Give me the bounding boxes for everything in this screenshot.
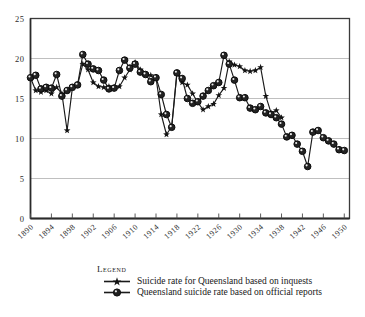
data-point-highlight (264, 111, 266, 113)
data-point-circle (163, 111, 170, 118)
data-point-highlight (170, 125, 172, 127)
legend-label-official-reports: Queensland suicide rate based on officia… (137, 287, 322, 298)
y-axis-tick-label: 10 (15, 134, 25, 144)
data-point-circle (273, 114, 280, 121)
data-point-highlight (243, 96, 245, 98)
data-point-highlight (65, 88, 67, 90)
data-point-circle (242, 94, 249, 101)
data-point-circle (142, 71, 149, 78)
data-point-circle (231, 77, 238, 84)
data-point-highlight (300, 149, 302, 151)
data-point-highlight (326, 139, 328, 141)
data-point-circle (205, 87, 212, 94)
data-point-circle (299, 148, 306, 155)
x-axis-tick-label: 1946 (309, 222, 328, 241)
data-point-highlight (44, 85, 46, 87)
data-point-star (189, 90, 196, 96)
data-point-circle (59, 93, 66, 100)
x-axis-tick-label: 1950 (330, 222, 349, 241)
data-point-highlight (185, 96, 187, 98)
data-point-circle (221, 52, 228, 59)
data-point-circle (53, 71, 60, 78)
data-point-circle (331, 141, 338, 148)
data-point-circle (200, 93, 207, 100)
data-point-circle (158, 91, 165, 98)
data-point-circle (95, 67, 102, 74)
x-axis-tick-label: 1930 (225, 222, 244, 241)
data-point-highlight (75, 83, 77, 85)
data-point-highlight (128, 66, 130, 68)
data-point-star (210, 101, 217, 107)
data-point-highlight (337, 148, 339, 150)
data-point-circle (121, 57, 128, 64)
data-point-circle (226, 61, 233, 68)
data-point-highlight (295, 142, 297, 144)
chart-legend: Legend Suicide rate for Queensland based… (96, 264, 361, 298)
data-point-star (242, 67, 249, 73)
data-point-highlight (81, 52, 83, 54)
x-axis-tick-label: 1934 (246, 222, 265, 241)
series-line (31, 55, 345, 167)
data-point-circle (341, 147, 348, 154)
data-point-highlight (175, 71, 177, 73)
data-point-circle (315, 127, 322, 134)
data-point-highlight (191, 101, 193, 103)
legend-item-inquests: Suicide rate for Queensland based on inq… (104, 276, 361, 287)
data-point-circle (278, 121, 285, 128)
data-point-circle (184, 95, 191, 102)
data-point-highlight (217, 80, 219, 82)
x-axis-tick-label: 1890 (16, 222, 35, 241)
data-point-highlight (321, 136, 323, 138)
legend-item-official-reports: Queensland suicide rate based on officia… (104, 287, 361, 298)
x-axis-tick-label: 1942 (288, 222, 307, 241)
data-point-circle (257, 103, 264, 110)
data-point-circle (132, 61, 139, 68)
data-point-circle (174, 70, 181, 77)
data-point-highlight (70, 85, 72, 87)
data-point-highlight (248, 106, 250, 108)
data-point-highlight (306, 164, 308, 166)
series-2 (27, 51, 347, 170)
data-point-circle (168, 124, 175, 131)
data-point-highlight (222, 53, 224, 55)
data-point-circle (215, 79, 222, 86)
data-point-circle (179, 75, 186, 82)
data-point-circle (195, 98, 202, 105)
data-point-highlight (117, 68, 119, 70)
data-point-highlight (133, 62, 135, 64)
data-point-highlight (316, 128, 318, 130)
data-point-highlight (96, 68, 98, 70)
y-axis-tick-label: 5 (20, 174, 25, 184)
data-point-highlight (138, 70, 140, 72)
chart-figure: 2520151050189018941898190219061910191419… (0, 0, 365, 317)
x-axis-tick-label: 1914 (141, 222, 160, 241)
data-point-star (95, 83, 102, 89)
x-axis-tick-label: 1902 (79, 222, 98, 241)
y-axis-tick-label: 25 (15, 14, 25, 24)
data-point-highlight (285, 135, 287, 137)
data-point-highlight (39, 87, 41, 89)
data-point-highlight (279, 122, 281, 124)
data-point-circle (79, 51, 86, 58)
data-point-star (252, 67, 259, 73)
x-axis-tick-label: 1922 (183, 222, 202, 241)
data-point-star (221, 85, 228, 91)
data-point-circle (294, 141, 301, 148)
x-axis-tick-label: 1938 (267, 222, 286, 241)
data-point-highlight (227, 62, 229, 64)
data-point-highlight (332, 142, 334, 144)
data-point-highlight (290, 133, 292, 135)
data-point-highlight (201, 94, 203, 96)
data-point-highlight (196, 100, 198, 102)
legend-title: Legend (97, 264, 361, 274)
x-axis-tick-label: 1926 (204, 222, 223, 241)
data-point-circle (289, 132, 296, 139)
y-axis-tick-label: 0 (20, 214, 25, 224)
data-point-highlight (159, 92, 161, 94)
data-point-highlight (112, 86, 114, 88)
data-point-highlight (211, 84, 213, 86)
x-axis-tick-label: 1894 (37, 222, 56, 241)
x-axis-tick-label: 1918 (162, 222, 181, 241)
data-point-highlight (102, 78, 104, 80)
star-marker-icon (104, 276, 130, 287)
